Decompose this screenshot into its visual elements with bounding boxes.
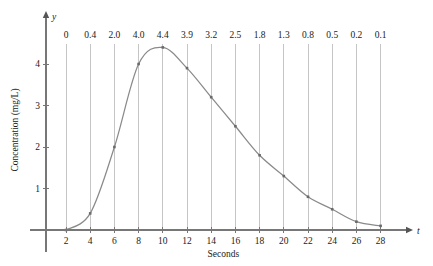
x-tick-label: 26 bbox=[352, 236, 362, 246]
x-tick-label: 6 bbox=[112, 236, 117, 246]
axes-group bbox=[30, 11, 413, 252]
x-tick-label: 24 bbox=[327, 236, 337, 246]
data-value-label: 2.0 bbox=[108, 30, 120, 40]
y-tick-label: 2 bbox=[35, 142, 40, 152]
data-point-marker bbox=[137, 63, 140, 66]
data-point-marker bbox=[283, 175, 286, 178]
x-tick-label: 18 bbox=[255, 236, 265, 246]
value-labels-group: 00.42.04.04.43.93.22.51.81.30.80.50.20.1 bbox=[64, 30, 387, 40]
data-value-label: 2.5 bbox=[229, 30, 241, 40]
x-tick-label: 12 bbox=[182, 236, 192, 246]
concentration-chart: 246810121416182022242628 1234 00.42.04.0… bbox=[0, 0, 433, 266]
x-tick-label: 4 bbox=[88, 236, 93, 246]
x-axis-arrow-icon bbox=[406, 227, 413, 233]
data-point-marker bbox=[258, 154, 261, 157]
data-point-marker bbox=[89, 212, 92, 215]
data-value-label: 0.2 bbox=[350, 30, 362, 40]
data-value-label: 0 bbox=[64, 30, 69, 40]
chart-plot-area: 246810121416182022242628 1234 00.42.04.0… bbox=[0, 0, 433, 266]
gridlines-group bbox=[66, 44, 381, 230]
x-tick-label: 14 bbox=[206, 236, 216, 246]
data-point-marker bbox=[210, 96, 213, 99]
x-tick-label: 10 bbox=[158, 236, 168, 246]
data-value-label: 1.3 bbox=[278, 30, 290, 40]
data-point-marker bbox=[234, 125, 237, 128]
data-value-label: 3.9 bbox=[181, 30, 193, 40]
y-axis-caption: Concentration (mg/L) bbox=[10, 88, 21, 171]
data-point-marker bbox=[379, 225, 382, 228]
data-point-marker bbox=[162, 46, 165, 49]
curve-group bbox=[66, 47, 381, 230]
y-tick-label: 3 bbox=[35, 101, 40, 111]
x-tick-label: 28 bbox=[376, 236, 386, 246]
x-tick-label: 2 bbox=[64, 236, 69, 246]
data-point-marker bbox=[113, 146, 116, 149]
data-value-label: 4.0 bbox=[133, 30, 145, 40]
data-value-label: 3.2 bbox=[205, 30, 217, 40]
data-point-marker bbox=[307, 196, 310, 199]
x-axis-caption: Seconds bbox=[207, 249, 239, 259]
data-point-marker bbox=[355, 220, 358, 223]
concentration-curve bbox=[66, 47, 381, 230]
data-point-markers bbox=[65, 46, 382, 231]
data-value-label: 1.8 bbox=[254, 30, 266, 40]
y-tick-label: 4 bbox=[35, 59, 40, 69]
data-point-marker bbox=[331, 208, 334, 211]
x-tick-label: 16 bbox=[231, 236, 241, 246]
data-value-label: 0.8 bbox=[302, 30, 314, 40]
x-axis-variable-label: t bbox=[417, 226, 420, 236]
data-value-label: 0.1 bbox=[375, 30, 387, 40]
y-tick-label: 1 bbox=[35, 184, 40, 194]
data-point-marker bbox=[186, 67, 189, 70]
x-tick-label: 20 bbox=[279, 236, 289, 246]
y-axis-ticks: 1234 bbox=[35, 59, 49, 194]
data-value-label: 0.4 bbox=[84, 30, 96, 40]
data-value-label: 4.4 bbox=[157, 30, 169, 40]
x-tick-label: 22 bbox=[303, 236, 313, 246]
data-value-label: 0.5 bbox=[326, 30, 338, 40]
x-tick-label: 8 bbox=[136, 236, 141, 246]
y-axis-arrow-icon bbox=[43, 11, 49, 18]
y-axis-variable-label: y bbox=[51, 12, 57, 22]
